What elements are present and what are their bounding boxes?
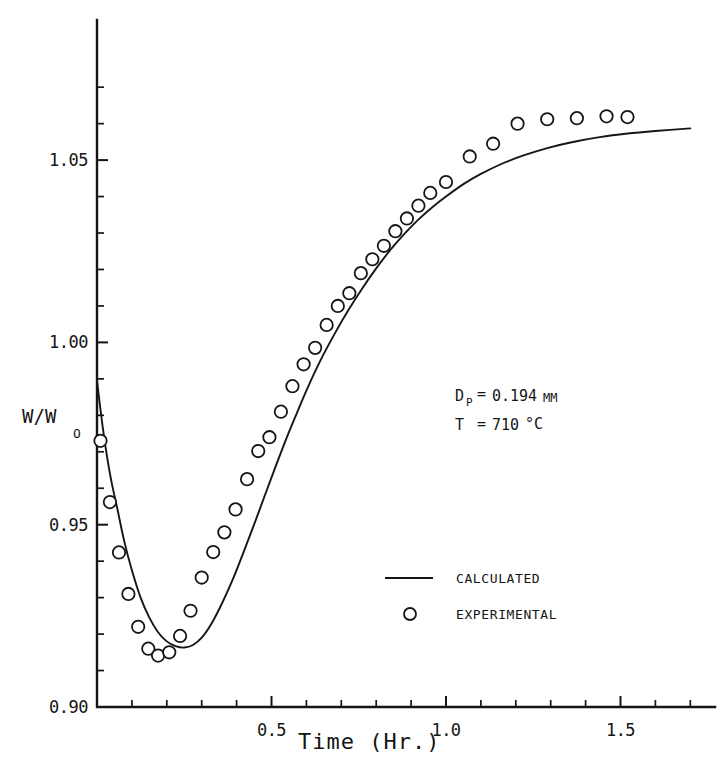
annotation-dp-equals: =: [477, 385, 486, 403]
y-axis-title: W/W O: [22, 405, 81, 441]
data-point: [229, 503, 241, 515]
data-point: [252, 445, 264, 457]
annotation-dp-unit: MM: [543, 391, 557, 405]
data-point: [378, 240, 390, 252]
data-point: [571, 112, 583, 124]
data-point: [424, 187, 436, 199]
data-point: [218, 526, 230, 538]
data-point: [263, 431, 275, 443]
data-point: [122, 588, 134, 600]
legend: CALCULATED EXPERIMENTAL: [385, 571, 557, 622]
legend-label-calculated: CALCULATED: [456, 571, 540, 586]
annotation-dp-value: 0.194: [492, 387, 537, 405]
data-point: [163, 646, 175, 658]
data-point: [366, 253, 378, 265]
chart-canvas: 0.900.951.001.05 0.51.01.5 W/W O Time (H…: [0, 0, 724, 776]
data-point: [113, 546, 125, 558]
data-point: [309, 342, 321, 354]
data-point: [401, 212, 413, 224]
data-point: [487, 137, 499, 149]
data-point: [464, 150, 476, 162]
y-tick-label: 1.05: [49, 150, 88, 170]
y-axis-title-text: W/W: [22, 405, 57, 427]
chart-figure: 0.900.951.001.05 0.51.01.5 W/W O Time (H…: [0, 0, 724, 776]
x-axis-ticks: [132, 696, 690, 707]
data-point: [184, 605, 196, 617]
data-point: [275, 405, 287, 417]
data-point: [621, 111, 633, 123]
data-point: [541, 113, 553, 125]
annotation-temp-value: 710: [492, 416, 519, 434]
data-point: [320, 319, 332, 331]
legend-label-experimental: EXPERIMENTAL: [456, 607, 557, 622]
annotation-temp-symbol: T: [455, 416, 464, 434]
x-tick-label: 1.5: [606, 720, 635, 740]
annotation-temp-equals: =: [477, 415, 486, 433]
annotation-dp-subscript: P: [466, 396, 473, 409]
data-point: [355, 267, 367, 279]
annotation-block: D P = 0.194 MM T = 710 °C: [455, 385, 557, 434]
data-point: [174, 630, 186, 642]
data-point: [94, 435, 106, 447]
data-point: [132, 621, 144, 633]
data-point: [332, 300, 344, 312]
annotation-dp-symbol: D: [455, 387, 464, 405]
y-tick-label: 0.90: [49, 697, 88, 717]
y-axis-title-subscript: O: [73, 426, 81, 441]
data-point: [389, 225, 401, 237]
data-point: [207, 546, 219, 558]
data-point: [440, 176, 452, 188]
experimental-points: [94, 110, 633, 662]
data-point: [412, 199, 424, 211]
y-tick-label: 0.95: [49, 515, 88, 535]
calculated-curve: [97, 128, 690, 647]
data-point: [600, 110, 612, 122]
y-axis-tick-labels: 0.900.951.001.05: [49, 150, 88, 717]
x-axis-title: Time (Hr.): [298, 729, 440, 754]
y-tick-label: 1.00: [49, 332, 88, 352]
data-point: [511, 117, 523, 129]
legend-circle-marker: [404, 608, 416, 620]
x-tick-label: 0.5: [257, 720, 286, 740]
data-point: [241, 473, 253, 485]
data-point: [297, 358, 309, 370]
data-point: [286, 380, 298, 392]
data-point: [104, 496, 116, 508]
data-point: [196, 571, 208, 583]
annotation-temp-unit: °C: [525, 415, 543, 433]
data-point: [343, 287, 355, 299]
